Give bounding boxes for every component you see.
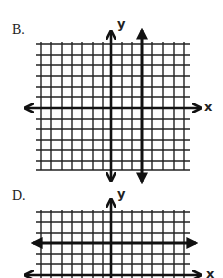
- graph-b-y-label: y: [117, 16, 125, 31]
- graph-b: [26, 30, 200, 182]
- graph-b-grid: [36, 42, 190, 170]
- graphs-canvas: [0, 0, 223, 278]
- graph-d: [26, 200, 200, 278]
- graph-b-x-label: x: [204, 99, 212, 114]
- graph-d-x-label: x: [206, 266, 214, 278]
- graph-d-y-label: y: [117, 186, 125, 201]
